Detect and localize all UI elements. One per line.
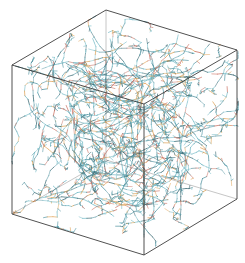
molecular-simulation-box — [0, 0, 245, 263]
simulation-box-edges — [0, 0, 245, 263]
